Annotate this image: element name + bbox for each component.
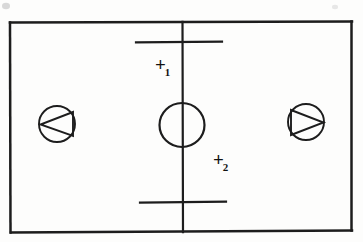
boundary-edge-left (10, 23, 11, 233)
pump-right-triangle (291, 110, 324, 135)
lower-horizontal-bar (140, 202, 226, 203)
reference-marker-1: +1 (155, 55, 171, 74)
boundary-edge-top (10, 22, 352, 23)
reference-marker-1-subscript: 1 (165, 66, 171, 78)
pump-symbol-right (288, 104, 324, 140)
smudge-top-left (2, 3, 10, 9)
upper-horizontal-bar (136, 42, 222, 43)
reference-marker-2-subscript: 2 (223, 161, 229, 173)
pump-symbol-left (39, 106, 75, 142)
smudge-top-right (332, 5, 338, 9)
boundary-edge-bottom (11, 231, 352, 233)
reference-marker-2: +2 (213, 150, 229, 169)
diagram-canvas: +1 +2 (0, 0, 363, 242)
pump-left-triangle (41, 112, 74, 136)
schematic-drawing (0, 0, 363, 242)
vertical-centerline (183, 22, 184, 232)
